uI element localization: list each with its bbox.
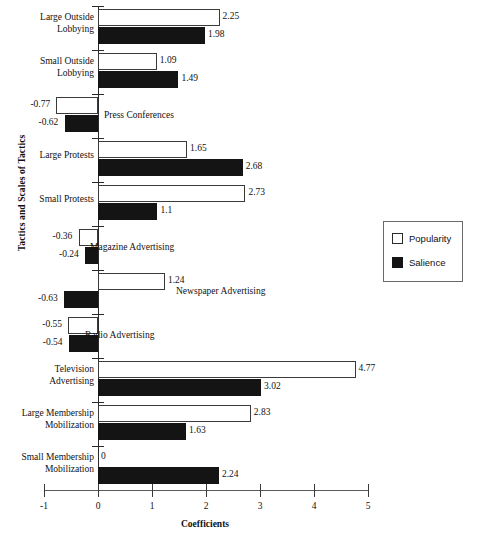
legend-label-salience: Salience bbox=[409, 257, 445, 268]
bar-salience bbox=[98, 379, 261, 396]
value-label-salience: 1.63 bbox=[189, 424, 206, 436]
filled-square-icon bbox=[392, 257, 403, 268]
category-label: Television Advertising bbox=[20, 364, 94, 387]
value-label-salience: 3.02 bbox=[264, 380, 281, 392]
value-label-salience: 2.24 bbox=[222, 468, 239, 480]
x-tick bbox=[98, 484, 99, 497]
value-label-popularity: 0 bbox=[101, 450, 106, 462]
value-label-salience: 1.49 bbox=[181, 72, 198, 84]
bar-popularity bbox=[98, 361, 356, 378]
value-label-salience: 1.98 bbox=[208, 28, 225, 40]
x-tick bbox=[152, 484, 153, 497]
bar-popularity bbox=[98, 53, 157, 70]
category-label: Magazine Advertising bbox=[90, 242, 210, 254]
legend: Popularity Salience bbox=[383, 221, 463, 282]
value-label-popularity: 2.25 bbox=[223, 10, 240, 22]
bar-popularity bbox=[98, 185, 245, 202]
value-label-popularity: 4.77 bbox=[359, 362, 376, 374]
bar-chart: Tactics and Scales of Tactics 2.251.981.… bbox=[0, 0, 478, 547]
x-tick bbox=[368, 484, 369, 497]
x-tick-label: 0 bbox=[83, 501, 113, 511]
bar-group: -0.55-0.54 bbox=[0, 314, 478, 358]
legend-label-popularity: Popularity bbox=[409, 233, 451, 244]
bar-salience bbox=[98, 423, 186, 440]
bar-popularity bbox=[98, 405, 251, 422]
category-label: Radio Advertising bbox=[85, 330, 195, 342]
bar-salience bbox=[98, 203, 157, 220]
legend-item-salience: Salience bbox=[392, 255, 445, 269]
value-label-salience: 2.68 bbox=[246, 160, 263, 172]
value-label-popularity: -0.77 bbox=[30, 98, 50, 110]
category-label: Press Conferences bbox=[104, 110, 214, 122]
category-label: Small Membership Mobilization bbox=[8, 452, 94, 475]
value-label-popularity: 1.09 bbox=[160, 54, 177, 66]
x-tick-label: 3 bbox=[245, 501, 275, 511]
x-tick-label: 2 bbox=[191, 501, 221, 511]
category-label: Small Outside Lobbying bbox=[22, 56, 94, 79]
x-tick bbox=[314, 484, 315, 497]
category-label: Large Membership Mobilization bbox=[8, 408, 94, 431]
value-label-salience: 1.1 bbox=[160, 204, 172, 216]
bar-popularity bbox=[98, 9, 220, 26]
bar-popularity bbox=[98, 273, 165, 290]
bar-salience bbox=[98, 27, 205, 44]
value-label-popularity: 1.65 bbox=[190, 142, 207, 154]
category-label: Large Protests bbox=[22, 150, 94, 162]
value-label-popularity: 2.83 bbox=[254, 406, 271, 418]
category-label: Newspaper Advertising bbox=[176, 286, 296, 298]
bar-salience bbox=[98, 159, 243, 176]
bar-salience bbox=[64, 291, 98, 308]
x-tick-label: 1 bbox=[137, 501, 167, 511]
bar-popularity bbox=[56, 97, 98, 114]
x-axis-title: Coefficients bbox=[0, 519, 410, 529]
bar-salience bbox=[98, 71, 178, 88]
bar-salience bbox=[98, 467, 219, 484]
value-label-popularity: -0.36 bbox=[53, 230, 73, 242]
x-tick bbox=[260, 484, 261, 497]
x-tick-label: 4 bbox=[299, 501, 329, 511]
value-label-popularity: 2.73 bbox=[248, 186, 265, 198]
x-tick-label: -1 bbox=[29, 501, 59, 511]
hollow-square-icon bbox=[392, 233, 403, 244]
value-label-salience: -0.63 bbox=[38, 292, 58, 304]
legend-item-popularity: Popularity bbox=[392, 231, 451, 245]
value-label-salience: -0.62 bbox=[39, 116, 59, 128]
bar-group: -0.77-0.62 bbox=[0, 94, 478, 138]
x-tick-label: 5 bbox=[353, 501, 383, 511]
category-label: Large Outside Lobbying bbox=[22, 12, 94, 35]
category-label: Small Protests bbox=[22, 194, 94, 206]
x-tick bbox=[44, 484, 45, 497]
bar-salience bbox=[65, 115, 98, 132]
x-tick bbox=[206, 484, 207, 497]
value-label-popularity: 1.24 bbox=[168, 274, 185, 286]
value-label-salience: -0.54 bbox=[43, 336, 63, 348]
bar-popularity bbox=[98, 141, 187, 158]
value-label-salience: -0.24 bbox=[59, 248, 79, 260]
value-label-popularity: -0.55 bbox=[42, 318, 62, 330]
